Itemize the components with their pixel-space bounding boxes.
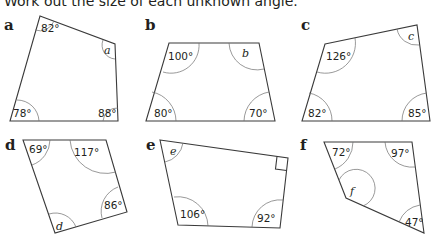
angle-value: 72°	[332, 146, 351, 158]
shape-label: b	[145, 16, 156, 34]
angle-value: 70°	[249, 107, 268, 119]
angle-value: 69°	[29, 143, 48, 155]
unknown-angle: c	[408, 30, 414, 43]
angle-value: 80°	[154, 107, 173, 119]
unknown-angle: a	[104, 44, 111, 57]
quadrilateral	[10, 16, 118, 121]
angle-value: 117°	[74, 146, 99, 158]
shape-label: c	[301, 16, 310, 34]
unknown-angle: d	[56, 220, 63, 233]
angle-value: 82°	[41, 22, 60, 34]
shape-label: f	[300, 136, 308, 154]
angle-value: 47°	[405, 216, 424, 228]
shape-label: e	[146, 136, 156, 154]
shape-f: f 72° 97° 47° f	[300, 136, 424, 233]
angle-value: 106°	[180, 208, 205, 220]
angle-arc	[339, 169, 375, 206]
angle-value: 100°	[168, 50, 193, 62]
angle-value: 85°	[408, 107, 427, 119]
unknown-angle: f	[349, 185, 356, 198]
shape-label: d	[5, 136, 16, 154]
angle-value: 78°	[13, 107, 32, 119]
shape-d: d 69° 117° 86° d	[5, 136, 127, 233]
shape-c: c 126° c 85° 82°	[301, 16, 430, 121]
shape-label: a	[4, 16, 14, 34]
angle-value: 86°	[104, 199, 123, 211]
angle-value: 97°	[391, 147, 410, 159]
right-angle-marker	[276, 157, 287, 171]
shape-a: a 82° a 88° 78°	[4, 16, 118, 121]
angle-value: 126°	[326, 50, 351, 62]
unknown-angle: b	[242, 47, 249, 60]
angle-value: 88°	[98, 107, 117, 119]
angle-value: 92°	[257, 212, 276, 224]
shape-e: e e 92° 106°	[146, 136, 288, 228]
angle-value: 82°	[308, 107, 327, 119]
quadrilateral-diagrams: a 82° a 88° 78° b 100° b 70° 80° c 126° …	[0, 0, 434, 235]
shape-b: b 100° b 70° 80°	[145, 16, 275, 121]
unknown-angle: e	[170, 145, 177, 158]
